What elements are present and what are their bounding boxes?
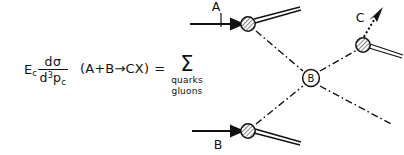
vertex-c (356, 38, 370, 52)
figure-canvas: Ec dσ d3pc (A+B→CX) = Σ quarks gluons (0, 0, 404, 155)
label-b: B (214, 137, 223, 152)
remnant-line-c (369, 44, 403, 58)
parton-line-b-to-blob (256, 86, 303, 124)
parton-line-a-to-blob (256, 31, 303, 71)
parton-line-blob-outgoing (320, 86, 393, 125)
vertex-hard-scatter: B (303, 70, 320, 87)
label-c: C (356, 10, 365, 25)
parton-line-blob-to-c (320, 50, 357, 71)
detected-particle-arrow-c (369, 7, 383, 22)
label-a: A (212, 0, 221, 14)
feynman-diagram: A B (0, 0, 404, 155)
remnant-line-a (254, 7, 301, 23)
vertex-a (241, 17, 255, 31)
hard-scatter-label: B (308, 73, 315, 84)
vertex-b (241, 124, 255, 138)
remnant-line-b (254, 129, 301, 145)
